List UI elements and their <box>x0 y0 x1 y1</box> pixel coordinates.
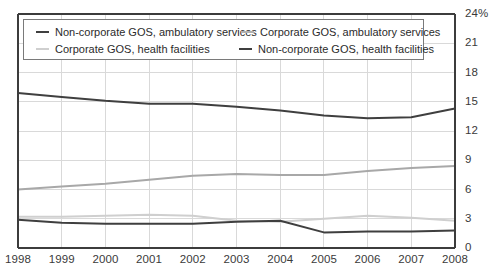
x-tick-label: 2004 <box>260 253 300 265</box>
chart-legend: Non-corporate GOS, ambulatory services C… <box>23 19 424 60</box>
legend-label: Non-corporate GOS, health facilities <box>258 43 434 55</box>
y-tick-label: 12 <box>465 124 478 136</box>
legend-item-corporate-gos-ambulatory-services: Corporate GOS, ambulatory services <box>236 26 425 38</box>
x-tick-label: 1999 <box>42 253 82 265</box>
y-tick-label: 9 <box>465 153 472 165</box>
x-tick-label: 2005 <box>304 253 344 265</box>
legend-row-2: Corporate GOS, health facilities Non-cor… <box>24 40 423 57</box>
legend-label: Non-corporate GOS, ambulatory services <box>55 26 257 38</box>
y-tick-label: 3 <box>465 212 472 224</box>
chart-container: 24%211815129630 199819992000200120022003… <box>0 0 497 274</box>
y-tick-label: 15 <box>465 95 478 107</box>
legend-item-non-corporate-gos-health-facilities: Non-corporate GOS, health facilities <box>234 43 423 55</box>
legend-swatch-icon <box>36 31 49 33</box>
y-tick-label: 24% <box>465 7 488 19</box>
legend-label: Corporate GOS, health facilities <box>55 43 210 55</box>
x-tick-label: 1998 <box>0 253 38 265</box>
x-tick-label: 2000 <box>85 253 125 265</box>
legend-swatch-icon <box>239 48 252 50</box>
x-tick-label: 2007 <box>391 253 431 265</box>
x-tick-label: 2003 <box>217 253 257 265</box>
legend-row-1: Non-corporate GOS, ambulatory services C… <box>24 23 423 40</box>
y-tick-label: 18 <box>465 66 478 78</box>
y-tick-label: 21 <box>465 36 478 48</box>
legend-swatch-icon <box>36 48 49 50</box>
x-tick-label: 2002 <box>173 253 213 265</box>
legend-label: Corporate GOS, ambulatory services <box>260 26 440 38</box>
legend-swatch-icon <box>241 31 254 33</box>
x-tick-label: 2006 <box>348 253 388 265</box>
x-tick-label: 2008 <box>435 253 475 265</box>
y-tick-label: 0 <box>465 241 472 253</box>
y-tick-label: 6 <box>465 183 472 195</box>
legend-item-non-corporate-gos-ambulatory-services: Non-corporate GOS, ambulatory services <box>24 26 236 38</box>
x-tick-label: 2001 <box>129 253 169 265</box>
legend-item-corporate-gos-health-facilities: Corporate GOS, health facilities <box>24 43 234 55</box>
